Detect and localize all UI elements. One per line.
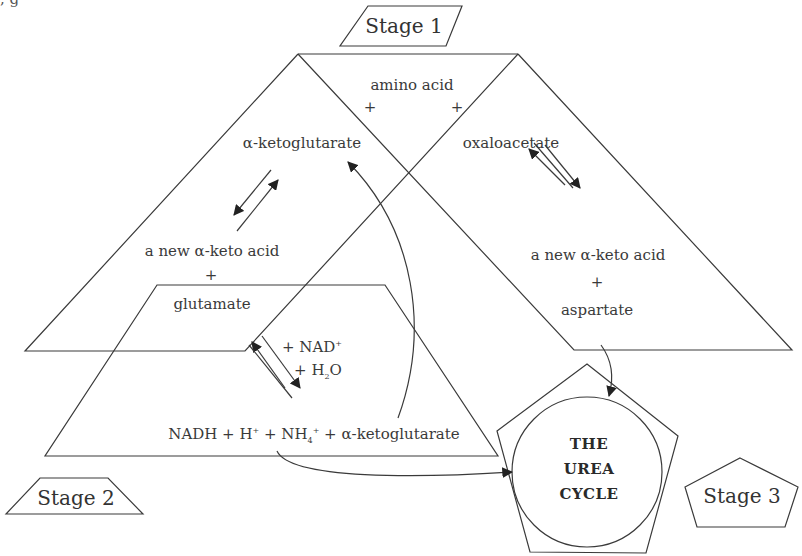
stage1-left-shape [25, 54, 518, 351]
plus-sign: + [205, 268, 218, 283]
urea-cycle-diagram: , g [0, 0, 802, 556]
stage2-label: Stage 2 [37, 488, 114, 508]
urea-cycle-label: THE UREA CYCLE [560, 432, 619, 507]
alpha-ketoglutarate-label: α-ketoglutarate [243, 136, 361, 151]
water-label: + H2O [294, 363, 342, 381]
ammonia-arrow [277, 451, 512, 476]
recycle-arrow [348, 162, 414, 418]
oxaloacetate-label: oxaloacetate [463, 136, 559, 151]
nad-plus-label: + NAD+ [282, 340, 342, 355]
glutamate-label: glutamate [173, 297, 250, 312]
stage3-label: Stage 3 [703, 486, 780, 506]
new-keto-acid-left-label: a new α-keto acid [145, 244, 280, 259]
new-keto-acid-right-label: a new α-keto acid [531, 248, 666, 263]
aspartate-label: aspartate [561, 303, 633, 318]
plus-sign: + [451, 100, 464, 115]
amino-acid-label: amino acid [370, 78, 453, 93]
plus-sign: + [364, 100, 377, 115]
stage2-products-label: NADH + H+ + NH4+ + α-ketoglutarate [168, 427, 459, 445]
plus-sign: + [591, 275, 604, 290]
aspartate-arrow [601, 345, 612, 396]
stage1-label: Stage 1 [365, 16, 442, 36]
